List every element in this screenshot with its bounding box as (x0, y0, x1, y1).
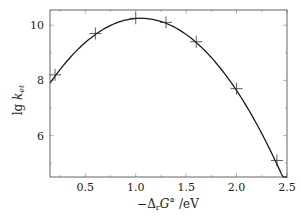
axis-ticks (50, 10, 287, 177)
y-tick-label: 8 (37, 74, 44, 87)
y-tick-label: 10 (30, 19, 44, 32)
x-axis-label: −ΔrG° /eV (137, 197, 199, 212)
y-tick-label: 6 (37, 130, 44, 143)
marcus-plot: 0.51.01.52.02.56810 −ΔrG° /eV lg ket (0, 0, 301, 219)
data-point-marker (130, 12, 142, 24)
x-tick-label: 2.0 (228, 181, 246, 194)
data-point-marker (160, 16, 172, 28)
x-tick-label: 2.5 (278, 181, 296, 194)
fit-curve (50, 18, 287, 177)
plot-frame (50, 10, 287, 177)
tick-labels: 0.51.01.52.02.56810 (30, 19, 296, 194)
x-tick-label: 0.5 (77, 181, 95, 194)
data-markers (49, 12, 283, 166)
x-tick-label: 1.5 (177, 181, 195, 194)
x-tick-label: 1.0 (127, 181, 145, 194)
y-axis-label: lg ket (11, 84, 26, 115)
